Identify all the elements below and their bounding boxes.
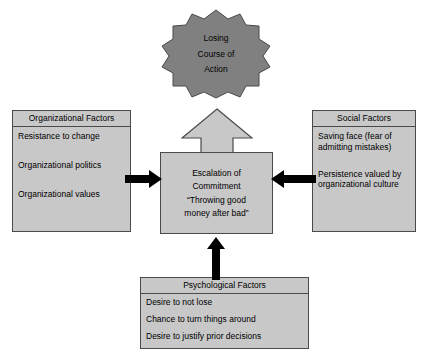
social-factors-box: Social Factors Saving face (fear of admi… xyxy=(312,110,416,232)
list-item: Desire to not lose xyxy=(146,297,303,308)
organizational-factors-box: Organizational Factors Resistance to cha… xyxy=(12,110,131,232)
social-factors-header: Social Factors xyxy=(313,111,415,127)
escalation-of-commitment-box: Escalation of Commitment “Throwing good … xyxy=(160,152,273,234)
center-line-4: money after bad” xyxy=(184,209,248,218)
list-item: Resistance to change xyxy=(18,131,125,142)
outcome-starburst: Losing Course of Action xyxy=(160,8,272,100)
up-arrow-icon xyxy=(207,236,225,280)
center-line-3: “Throwing good xyxy=(187,196,246,205)
block-up-arrow-icon xyxy=(181,108,253,156)
left-arrow-icon xyxy=(270,170,316,188)
psychological-factors-header: Psychological Factors xyxy=(141,278,308,294)
right-arrow-shape xyxy=(125,170,163,188)
psychological-factors-list: Desire to not lose Chance to turn things… xyxy=(141,294,308,350)
organizational-factors-list: Resistance to change Organizational poli… xyxy=(13,127,130,221)
organizational-factors-header: Organizational Factors xyxy=(13,111,130,127)
list-item: Saving face (fear of admitting mistakes) xyxy=(318,131,410,152)
left-arrow-shape xyxy=(270,170,316,188)
up-arrow-shape xyxy=(207,236,225,280)
list-item: Persistence valued by organizational cul… xyxy=(318,169,410,190)
escalation-of-commitment-diagram: Losing Course of Action Escalation of Co… xyxy=(0,0,424,362)
list-item: Organizational politics xyxy=(18,160,125,171)
outcome-line-2: Course of xyxy=(198,50,235,59)
center-line-1: Escalation of xyxy=(192,169,241,178)
social-factors-list: Saving face (fear of admitting mistakes)… xyxy=(313,127,415,210)
outcome-text: Losing Course of Action xyxy=(160,8,272,100)
outcome-line-1: Losing xyxy=(203,34,228,43)
block-up-arrow-shape xyxy=(181,108,253,156)
psychological-factors-box: Psychological Factors Desire to not lose… xyxy=(140,277,309,349)
outcome-line-3: Action xyxy=(204,65,228,74)
list-item: Organizational values xyxy=(18,189,125,200)
list-item: Chance to turn things around xyxy=(146,314,303,325)
center-line-2: Commitment xyxy=(192,182,240,191)
right-arrow-icon xyxy=(125,170,163,188)
list-item: Desire to justify prior decisions xyxy=(146,331,303,342)
